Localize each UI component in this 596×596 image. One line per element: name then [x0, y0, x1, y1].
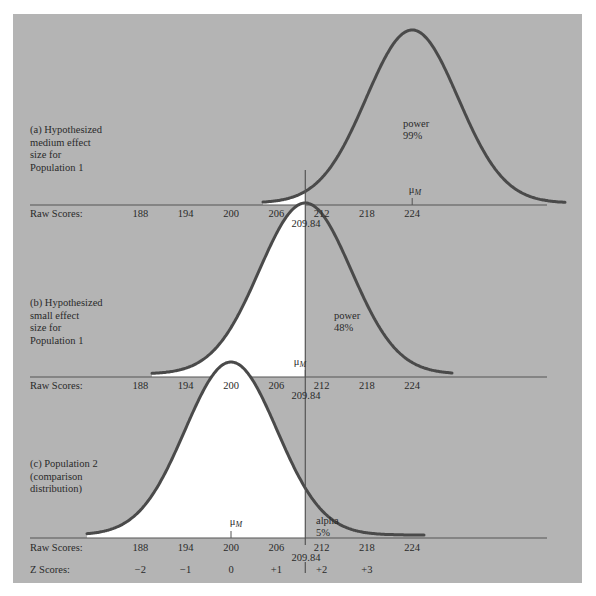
z-score-tick: +1 [271, 564, 282, 575]
panel-a-raw-scores-label: Raw Scores: [30, 208, 83, 220]
raw-score-tick: 206 [268, 208, 284, 219]
panel-c-cutoff-label: 209.84 [292, 552, 321, 563]
panel-b-power-value: 48% [334, 322, 353, 334]
panel-b-mean-label: μM [294, 356, 306, 369]
panel-a-curve [263, 30, 565, 202]
raw-score-tick: 224 [404, 542, 420, 553]
raw-score-tick: 218 [359, 380, 375, 391]
panel-a-label: (a) Hypothesized medium effect size for … [30, 124, 140, 174]
panel-c-label: (c) Population 2 (comparison distributio… [30, 458, 140, 496]
raw-score-tick: 200 [223, 380, 239, 391]
raw-score-tick: 194 [178, 208, 194, 219]
panel-b-white-region [152, 203, 305, 377]
panel-c-mean-label: μM [230, 516, 242, 529]
panel-b-raw-scores-label: Raw Scores: [30, 380, 83, 392]
panel-a-cutoff-label: 209.84 [292, 218, 321, 229]
panel-c-raw-scores-label: Raw Scores: [30, 542, 83, 554]
panel-b-power-label: power [334, 310, 360, 322]
z-score-tick: −2 [135, 564, 146, 575]
panel-b-cutoff-label: 209.84 [292, 390, 321, 401]
raw-score-tick: 194 [178, 380, 194, 391]
raw-score-tick: 224 [404, 208, 420, 219]
raw-score-tick: 200 [223, 208, 239, 219]
panel-c-alpha-label: alpha [316, 515, 339, 527]
raw-score-tick: 188 [133, 542, 149, 553]
panel-a-power-value: 99% [403, 130, 422, 142]
raw-score-tick: 218 [359, 542, 375, 553]
panel-c-alpha-value: 5% [316, 527, 330, 539]
raw-score-tick: 218 [359, 208, 375, 219]
panel-b-label: (b) Hypothesized small effect size for P… [30, 297, 140, 347]
raw-score-tick: 188 [133, 380, 149, 391]
raw-score-tick: 200 [223, 542, 239, 553]
z-scores-label: Z Scores: [30, 564, 70, 576]
raw-score-tick: 206 [268, 542, 284, 553]
z-score-tick: −1 [180, 564, 191, 575]
raw-score-tick: 206 [268, 380, 284, 391]
z-score-tick: +3 [361, 564, 372, 575]
raw-score-tick: 194 [178, 542, 194, 553]
raw-score-tick: 188 [133, 208, 149, 219]
z-score-tick: +2 [316, 564, 327, 575]
panel-a-power-label: power [403, 118, 429, 130]
raw-score-tick: 224 [404, 380, 420, 391]
z-score-tick: 0 [228, 564, 233, 575]
panel-a-mean-label: μM [409, 184, 421, 197]
